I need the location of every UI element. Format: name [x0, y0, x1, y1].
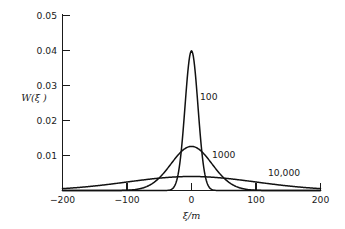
y-tick-label-0.04: 0.04: [37, 45, 58, 56]
series-label-1000: 1000: [212, 149, 236, 160]
y-tick-label-0.02: 0.02: [37, 115, 57, 126]
x-axis-title: ξ/m: [183, 210, 201, 221]
x-tick-label-200: 200: [312, 194, 330, 205]
series-label-10000: 10,000: [268, 167, 300, 178]
y-tick-label-0.05: 0.05: [37, 10, 58, 21]
y-tick-label-0.01: 0.01: [37, 150, 57, 161]
x-tick-label-0: 0: [189, 194, 195, 205]
x-tick-label--200: −200: [50, 194, 75, 205]
y-axis-title: W(ξ ): [21, 92, 47, 103]
chart-figure: 0.05 0.04 0.03 0.02 0.01 −200 −100 0 100…: [0, 0, 345, 229]
x-tick-label-100: 100: [247, 194, 265, 205]
x-tick-label--100: −100: [114, 194, 139, 205]
y-tick-label-0.03: 0.03: [37, 80, 58, 91]
series-label-100: 100: [200, 91, 218, 102]
diffusion-distribution-plot: 0.05 0.04 0.03 0.02 0.01 −200 −100 0 100…: [0, 0, 345, 229]
